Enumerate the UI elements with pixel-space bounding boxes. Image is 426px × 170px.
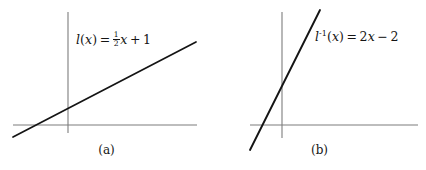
- caption-b: (b): [213, 143, 426, 157]
- plus-operator-a: +: [127, 32, 143, 47]
- slope-variable-b: x: [368, 29, 375, 44]
- formula-label-b: l-1(x)=2x−2: [315, 31, 398, 44]
- panel-a: l(x)=12x+1 (a): [0, 0, 213, 170]
- panel-b: l-1(x)=2x−2 (b): [213, 0, 426, 170]
- figure-container: l(x)=12x+1 (a) l-1(x)=2x−2 (b): [0, 0, 426, 170]
- fraction-numerator-a: 1: [113, 31, 120, 39]
- intercept-value-a: 1: [143, 32, 151, 47]
- slope-value-b: 2: [360, 29, 368, 44]
- function-line-a: [13, 42, 196, 137]
- formula-label-a: l(x)=12x+1: [76, 31, 151, 47]
- minus-operator-b: −: [375, 29, 391, 44]
- fraction-denominator-a: 2: [113, 39, 120, 48]
- caption-a: (a): [0, 143, 213, 157]
- intercept-value-b: 2: [390, 29, 398, 44]
- function-argument-b: x: [332, 29, 339, 44]
- function-line-b: [250, 10, 320, 150]
- equals-sign-b: =: [344, 29, 360, 44]
- inverse-superscript-b: -1: [319, 29, 327, 38]
- slope-fraction-a: 12: [113, 31, 120, 47]
- equals-sign-a: =: [97, 32, 113, 47]
